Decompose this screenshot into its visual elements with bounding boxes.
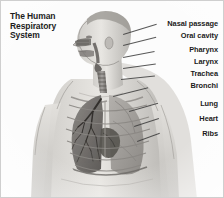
label-oral-cavity: Oral cavity — [181, 32, 218, 40]
label-bronchi: Bronchi — [190, 82, 218, 90]
label-ribs: Ribs — [202, 130, 218, 138]
figure-title: The Human Respiratory System — [10, 12, 80, 41]
label-lung: Lung — [200, 100, 218, 108]
label-heart: Heart — [199, 115, 218, 123]
label-pharynx: Pharynx — [189, 46, 218, 54]
label-trachea: Trachea — [190, 70, 218, 78]
label-larynx: Larynx — [194, 58, 218, 66]
title-line-3: System — [10, 31, 80, 41]
label-nasal-passage: Nasal passage — [167, 20, 218, 28]
respiratory-system-figure: The Human Respiratory System — [0, 0, 224, 198]
